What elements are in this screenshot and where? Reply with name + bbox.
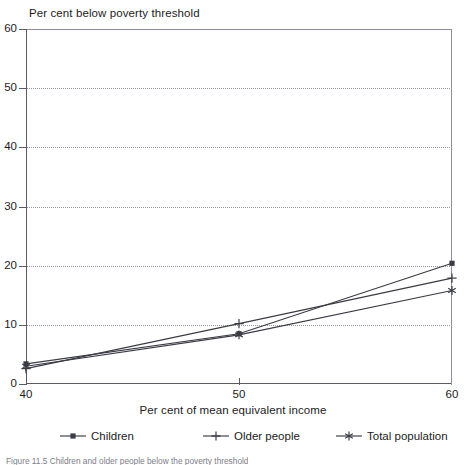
legend-label: Older people — [234, 430, 300, 442]
x-axis-title: Per cent of mean equivalent income — [0, 404, 466, 416]
x-axis-tick-label: 50 — [224, 388, 254, 400]
y-axis-tick-label: 50 — [0, 81, 17, 93]
plus-marker-icon — [211, 431, 220, 440]
gridline — [26, 325, 452, 326]
legend-item-children[interactable]: Children — [60, 427, 134, 445]
gridline — [26, 88, 452, 89]
legend-item-older-people[interactable]: Older people — [203, 427, 300, 445]
y-axis-tick — [19, 266, 27, 267]
gridline — [26, 207, 452, 208]
y-axis-tick-label: 40 — [0, 140, 17, 152]
y-axis-tick — [19, 147, 27, 148]
y-axis-tick-label: 30 — [0, 200, 17, 212]
x-axis-tick-label: 40 — [11, 388, 41, 400]
y-axis-tick — [19, 384, 27, 385]
chart-figure: Per cent below poverty threshold 6050403… — [0, 0, 466, 465]
x-axis-tick — [239, 378, 240, 385]
asterisk-marker-icon — [336, 430, 362, 442]
plot-top-border — [26, 29, 452, 30]
y-axis-tick — [19, 207, 27, 208]
plus-marker-icon — [203, 430, 229, 442]
gridline — [26, 147, 452, 148]
x-axis-tick-label: 60 — [437, 388, 466, 400]
y-axis-tick — [19, 88, 27, 89]
y-axis-tick-label: 60 — [0, 22, 17, 34]
y-axis-tick — [19, 29, 27, 30]
square-marker-icon — [60, 430, 86, 442]
legend-label: Total population — [367, 430, 448, 442]
y-axis-title: Per cent below poverty threshold — [29, 7, 200, 19]
square-marker-icon — [70, 433, 75, 438]
y-axis-tick-label: 10 — [0, 318, 17, 330]
figure-caption: Figure 11.5 Children and older people be… — [6, 456, 248, 465]
legend-item-total-population[interactable]: Total population — [336, 427, 448, 445]
legend: ChildrenOlder peopleTotal population — [0, 427, 466, 447]
gridline — [26, 266, 452, 267]
legend-label: Children — [91, 430, 134, 442]
y-axis-tick-label: 20 — [0, 259, 17, 271]
y-axis-tick — [19, 325, 27, 326]
